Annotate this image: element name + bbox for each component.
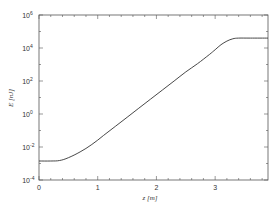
x-axis-ticks: 0123 xyxy=(37,15,262,191)
data-series xyxy=(39,38,268,161)
x-tick-label: 0 xyxy=(37,184,41,191)
x-tick-label: 3 xyxy=(213,184,217,191)
y-tick-label: 10 xyxy=(22,78,30,85)
y-tick-exponent: -4 xyxy=(30,175,35,181)
y-tick-label: 10 xyxy=(22,45,30,52)
y-tick-exponent: 4 xyxy=(30,43,33,49)
energy-vs-z-chart: 0123 10-410-2100102104106 z [m] E [nJ] xyxy=(0,0,273,205)
x-tick-label: 2 xyxy=(154,184,158,191)
y-axis-ticks: 10-410-2100102104106 xyxy=(22,10,268,184)
y-axis-label: E [nJ] xyxy=(7,89,15,108)
x-tick-label: 1 xyxy=(96,184,100,191)
y-tick-exponent: -2 xyxy=(30,142,35,148)
y-tick-label: 10 xyxy=(22,177,30,184)
x-axis-label: z [m] xyxy=(142,194,158,202)
series-line xyxy=(39,38,268,161)
y-tick-exponent: 0 xyxy=(30,109,33,115)
y-tick-exponent: 6 xyxy=(30,10,33,16)
y-tick-label: 10 xyxy=(22,144,30,151)
y-tick-label: 10 xyxy=(22,12,30,19)
y-tick-exponent: 2 xyxy=(30,76,33,82)
y-tick-label: 10 xyxy=(22,111,30,118)
